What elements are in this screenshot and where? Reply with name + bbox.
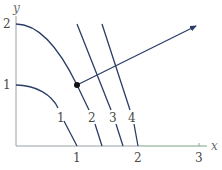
level-curve-label-3: 3 bbox=[109, 111, 117, 125]
level-curve-label-1: 1 bbox=[57, 111, 65, 125]
y-axis-label: y bbox=[12, 1, 20, 15]
y-tick-label-1: 1 bbox=[3, 78, 11, 92]
x-tick-label-3: 3 bbox=[195, 151, 203, 165]
level-curve-4 bbox=[102, 24, 138, 146]
level-curve-label-4: 4 bbox=[128, 111, 136, 125]
gradient-arrow bbox=[77, 26, 196, 85]
level-curve-2 bbox=[16, 24, 102, 146]
x-tick-label-2: 2 bbox=[134, 151, 142, 165]
level-curves-diagram: y x 2 1 1 2 3 1 2 3 4 bbox=[0, 0, 222, 170]
x-axis-label: x bbox=[211, 139, 218, 153]
y-tick-label-2: 2 bbox=[3, 17, 11, 31]
point-marker bbox=[74, 82, 80, 88]
level-curve-3 bbox=[77, 24, 123, 146]
level-curve-label-2: 2 bbox=[88, 111, 96, 125]
diagram-canvas: y x 2 1 1 2 3 1 2 3 4 bbox=[0, 0, 222, 170]
level-curve-1 bbox=[16, 85, 77, 146]
x-tick-label-1: 1 bbox=[73, 151, 81, 165]
